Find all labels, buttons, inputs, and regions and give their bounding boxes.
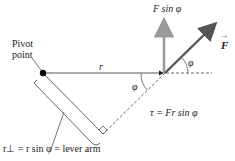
phi-label-bottom: φ: [132, 82, 138, 92]
force-label: F: [221, 40, 228, 51]
pivot-label: Pivot: [12, 39, 33, 49]
diagram-graphics: [0, 0, 235, 161]
phi-label-top: φ: [188, 58, 194, 68]
torque-equation: τ = Fr sin φ: [150, 108, 198, 118]
fsin-label: F sin φ: [153, 4, 181, 14]
force-vector-arrow-icon: →: [220, 32, 228, 40]
torque-diagram: Pivot point r φ φ F sin φ F → τ = Fr sin…: [0, 0, 235, 161]
pivot-dot: [40, 70, 46, 76]
pivot-label-2: point: [12, 50, 33, 60]
lever-arm-equation: r⊥ = r sin φ = lever arm: [3, 144, 100, 154]
r-label: r: [99, 62, 103, 72]
